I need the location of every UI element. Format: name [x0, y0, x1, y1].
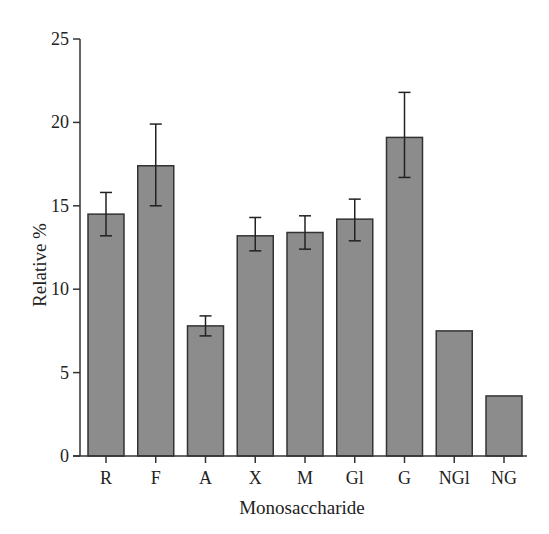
bar-a: [188, 316, 224, 456]
bar-ng: [486, 396, 522, 456]
bar-g: [387, 92, 423, 456]
bar-chart: 0510152025 RFAXMGlGNGlNG Relative % Mono…: [0, 0, 549, 534]
x-axis-label: Monosaccharide: [239, 497, 365, 518]
bar-x: [237, 217, 273, 456]
bar-ngl: [436, 331, 472, 456]
bar-rect: [287, 232, 323, 456]
y-tick-label: 25: [51, 29, 69, 49]
x-axis: RFAXMGlGNGlNG: [73, 456, 527, 488]
x-tick-label: A: [199, 468, 212, 488]
bar-rect: [138, 166, 174, 456]
y-tick-label: 5: [60, 363, 69, 383]
x-tick-label: NGl: [439, 468, 470, 488]
bars: [88, 92, 522, 456]
y-tick-label: 0: [60, 446, 69, 466]
y-tick-label: 15: [51, 196, 69, 216]
bar-rect: [486, 396, 522, 456]
bar-rect: [436, 331, 472, 456]
x-tick-label: G: [398, 468, 411, 488]
y-tick-label: 10: [51, 279, 69, 299]
bar-rect: [337, 219, 373, 456]
bar-rect: [88, 214, 124, 456]
bar-rect: [188, 326, 224, 456]
x-tick-label: F: [151, 468, 161, 488]
chart-canvas: 0510152025 RFAXMGlGNGlNG Relative % Mono…: [0, 0, 549, 534]
y-tick-label: 20: [51, 112, 69, 132]
x-tick-label: X: [249, 468, 262, 488]
bar-rect: [237, 236, 273, 456]
y-axis: 0510152025: [51, 29, 80, 466]
x-tick-label: M: [297, 468, 313, 488]
x-tick-label: R: [100, 468, 112, 488]
bar-r: [88, 192, 124, 456]
bar-m: [287, 216, 323, 456]
bar-rect: [387, 137, 423, 456]
x-tick-label: Gl: [346, 468, 364, 488]
y-axis-label: Relative %: [29, 223, 50, 307]
x-tick-label: NG: [491, 468, 517, 488]
bar-gl: [337, 199, 373, 456]
bar-f: [138, 124, 174, 456]
